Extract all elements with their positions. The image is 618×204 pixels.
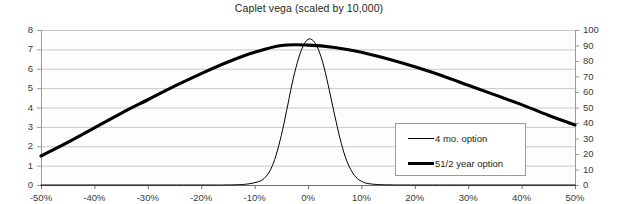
x-axis-tick-label: -30% <box>126 192 170 203</box>
y-axis-right-tick-label: 70 <box>583 71 609 82</box>
x-axis-tick-label: 10% <box>339 192 383 203</box>
y-axis-left-tick-label: 7 <box>7 43 33 54</box>
x-axis-tick-label: 0% <box>286 192 330 203</box>
y-axis-left-tick-label: 6 <box>7 63 33 74</box>
legend-line-thin-icon <box>408 133 434 143</box>
chart-legend: 4 mo. option 51/2 year option <box>395 123 526 176</box>
y-axis-left-tick-label: 3 <box>7 121 33 132</box>
x-axis-tick-label: 40% <box>500 192 544 203</box>
y-axis-left-tick-label: 0 <box>7 179 33 190</box>
legend-item-5-half-year-option: 51/2 year option <box>396 154 527 172</box>
x-axis-tick-label: -10% <box>233 192 277 203</box>
y-axis-right-tick-label: 20 <box>583 148 609 159</box>
chart-container: Caplet vega (scaled by 10,000) 012345678… <box>0 0 618 204</box>
x-axis-tick-label: 20% <box>393 192 437 203</box>
y-axis-right-tick-label: 0 <box>583 179 609 190</box>
legend-label: 51/2 year option <box>435 158 503 169</box>
y-axis-left-tick-label: 5 <box>7 82 33 93</box>
y-axis-right-tick-label: 40 <box>583 117 609 128</box>
legend-label: 4 mo. option <box>435 133 487 144</box>
x-axis-tick-label: -50% <box>19 192 63 203</box>
legend-line-thick-icon <box>408 158 434 168</box>
x-axis-tick-label: -40% <box>72 192 116 203</box>
y-axis-right-tick-label: 90 <box>583 40 609 51</box>
x-axis-tick-label: 50% <box>553 192 597 203</box>
y-axis-left-tick-label: 8 <box>7 24 33 35</box>
y-axis-right-tick-label: 80 <box>583 55 609 66</box>
y-axis-left-tick-label: 4 <box>7 102 33 113</box>
y-axis-right-tick-label: 60 <box>583 86 609 97</box>
y-axis-left-tick-label: 2 <box>7 140 33 151</box>
y-axis-right-tick-label: 30 <box>583 133 609 144</box>
y-axis-left-tick-label: 1 <box>7 160 33 171</box>
x-axis-tick-label: -20% <box>179 192 223 203</box>
legend-item-4-mo-option: 4 mo. option <box>396 129 527 147</box>
x-axis-tick-label: 30% <box>446 192 490 203</box>
y-axis-right-tick-label: 50 <box>583 102 609 113</box>
y-axis-right-tick-label: 100 <box>583 24 609 35</box>
y-axis-right-tick-label: 10 <box>583 164 609 175</box>
